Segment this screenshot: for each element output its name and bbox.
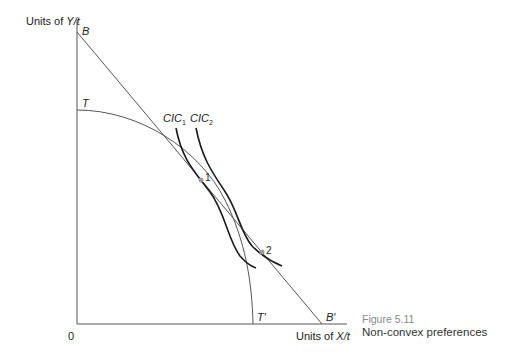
- cic2-label: CIC2: [190, 113, 213, 126]
- point-2-marker: [260, 250, 265, 255]
- point-b-label: B: [82, 26, 89, 37]
- x-axis-label: Units of X/t: [296, 331, 350, 342]
- diagram-canvas: [0, 0, 514, 360]
- figure-title: Non-convex preferences: [362, 326, 487, 338]
- point-1-marker: [199, 178, 204, 183]
- point-t-prime-label: T′: [257, 312, 266, 323]
- cic2-label-sub: 2: [209, 119, 213, 126]
- origin-label: 0: [68, 331, 74, 342]
- figure-number: Figure 5.11: [362, 313, 414, 325]
- x-axis-label-prefix: Units of: [296, 330, 336, 342]
- production-frontier: [77, 110, 253, 324]
- cic1-label: CIC1: [163, 113, 186, 126]
- point-t-label: T: [82, 98, 89, 109]
- cic1-label-sub: 1: [182, 119, 186, 126]
- y-axis-label-var: Y/t: [66, 15, 79, 27]
- cic2-label-base: CIC: [190, 112, 209, 124]
- point-1-label: 1: [205, 173, 211, 183]
- point-2-label: 2: [266, 246, 272, 256]
- point-b-prime-label: B′: [326, 312, 335, 323]
- y-axis-label: Units of Y/t: [26, 16, 80, 27]
- x-axis-label-var: X/t: [336, 330, 349, 342]
- y-axis-label-prefix: Units of: [26, 15, 66, 27]
- cic1-label-base: CIC: [163, 112, 182, 124]
